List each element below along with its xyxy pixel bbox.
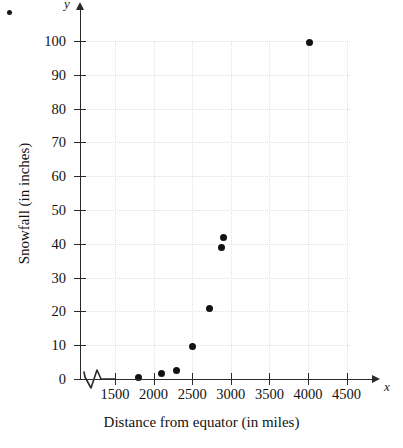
y-axis-title: Snowfall (in inches) [16, 94, 33, 314]
y-axis-tick [74, 41, 86, 42]
gridline-horizontal [80, 176, 350, 177]
gridline-vertical [192, 41, 193, 379]
plot-area [80, 41, 350, 379]
gridline-horizontal [80, 278, 350, 279]
gridline-horizontal [80, 75, 350, 76]
x-axis-arrow [372, 375, 380, 383]
y-axis-arrow [76, 2, 84, 10]
y-axis-line [80, 8, 81, 379]
data-point [135, 374, 142, 381]
scan-artifact-dot [7, 10, 12, 15]
y-axis-tick-label: 90 [8, 68, 66, 83]
data-point [173, 367, 180, 374]
x-axis-tick [154, 373, 155, 385]
y-axis-tick [74, 379, 86, 380]
y-axis-tick [74, 278, 86, 279]
x-axis-line [80, 379, 376, 380]
data-point [189, 343, 196, 350]
gridline-vertical [269, 41, 270, 379]
y-axis-tick-label: 0 [8, 372, 66, 387]
data-point [218, 244, 225, 251]
gridline-horizontal [80, 345, 350, 346]
scatter-plot-figure: y x 010203040506070809010015002000250030… [0, 0, 403, 448]
x-axis-tick [192, 373, 193, 385]
y-axis-tick [74, 75, 86, 76]
y-axis-tick [74, 210, 86, 211]
gridline-vertical [231, 41, 232, 379]
y-axis-tick [74, 244, 86, 245]
data-point [220, 234, 227, 241]
y-axis-tick [74, 345, 86, 346]
gridline-horizontal [80, 210, 350, 211]
gridline-vertical [308, 41, 309, 379]
x-axis-letter: x [384, 379, 390, 395]
y-axis-letter: y [64, 0, 70, 12]
y-axis-tick [74, 176, 86, 177]
gridline-vertical [115, 41, 116, 379]
gridline-horizontal [80, 244, 350, 245]
x-axis-tick [231, 373, 232, 385]
y-axis-tick [74, 109, 86, 110]
gridline-horizontal [80, 311, 350, 312]
gridline-horizontal [80, 109, 350, 110]
gridline-horizontal [80, 142, 350, 143]
gridline-vertical [154, 41, 155, 379]
data-point [206, 305, 213, 312]
x-axis-tick [115, 373, 116, 385]
y-axis-tick-label: 100 [8, 34, 66, 49]
y-axis-tick [74, 142, 86, 143]
x-axis-tick-label: 4500 [317, 387, 377, 402]
x-axis-tick [308, 373, 309, 385]
y-axis-tick-label: 10 [8, 338, 66, 353]
y-axis-tick [74, 311, 86, 312]
gridline-vertical [347, 41, 348, 379]
data-point [306, 39, 313, 46]
x-axis-tick [269, 373, 270, 385]
x-axis-tick [347, 373, 348, 385]
data-point [158, 370, 165, 377]
x-axis-title: Distance from equator (in miles) [0, 414, 403, 431]
